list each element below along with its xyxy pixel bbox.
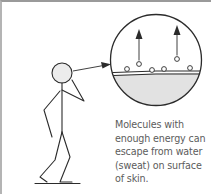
escape-arrows <box>136 25 181 61</box>
diagram-frame: Molecules with enough energy can escape … <box>0 0 211 194</box>
caption-line: of skin. <box>115 172 211 186</box>
molecule <box>125 67 130 72</box>
escaping-molecule <box>137 62 142 67</box>
skin-region <box>100 73 211 120</box>
left-leg <box>40 132 62 182</box>
head <box>52 63 72 83</box>
up-arrow-icon <box>174 25 181 35</box>
stick-figure <box>35 63 84 184</box>
up-arrow-icon <box>136 29 143 39</box>
molecule <box>188 66 193 71</box>
caption-line: enough energy can <box>115 132 211 146</box>
caption-line: escape from water <box>115 145 211 159</box>
escaping-molecule <box>175 57 180 62</box>
water-surface-line <box>100 71 211 73</box>
pointer-arrow-icon <box>101 62 111 69</box>
caption-line: (sweat) on surface <box>115 159 211 173</box>
caption-line: Molecules with <box>115 118 211 132</box>
molecule <box>162 67 167 72</box>
molecules <box>125 57 193 73</box>
left-arm <box>44 91 60 137</box>
right-leg <box>60 132 72 182</box>
caption: Molecules with enough energy can escape … <box>115 118 211 186</box>
magnified-view <box>100 15 211 121</box>
molecule <box>150 68 155 73</box>
right-arm <box>62 80 84 101</box>
